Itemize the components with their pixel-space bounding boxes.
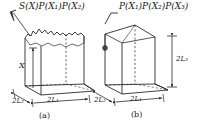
- panel-b-top-label-text: P(X₁)P(X₂)P(X₃): [119, 1, 188, 11]
- leader-arrow-a: [10, 10, 30, 36]
- panel-a-depth-label-text: 2L₂: [12, 97, 24, 105]
- figure-container: S(X)P(X₁)P(X₂) X 2L₂ 2L₁ (a) P(X₁)P(X₂)P…: [0, 0, 206, 127]
- panel-b-height-label-text: 2L₃: [176, 55, 188, 63]
- panel-b-width-label: 2L₁: [130, 96, 142, 103]
- dimension-arrow-x-a: [29, 48, 37, 88]
- peak-surface-ridge-b: [122, 25, 135, 43]
- peak-surface-b: [105, 25, 155, 37]
- panel-a-height-label-text: X: [19, 61, 25, 70]
- figure-drawing: [0, 0, 206, 127]
- rough-surface-back-a: [25, 38, 84, 47]
- leader-line-b: [105, 13, 118, 24]
- panel-b-depth-label: 2L₂: [94, 97, 106, 104]
- panel-b-width-label-text: 2L₁: [130, 95, 142, 103]
- panel-b-caption-text: (b): [131, 110, 142, 119]
- panel-a-drawing: [10, 10, 95, 107]
- dimension-line-2L1-a: [32, 95, 90, 107]
- panel-a-caption-text: (a): [39, 111, 50, 120]
- panel-b-caption: (b): [131, 111, 142, 119]
- panel-b-height-label: 2L₃: [176, 56, 188, 63]
- rough-surface-a: [25, 29, 84, 38]
- panel-a-caption: (a): [39, 112, 50, 120]
- panel-b-depth-label-text: 2L₂: [94, 96, 106, 104]
- box-a-right-lower-edge: [84, 84, 95, 91]
- panel-a-top-label: S(X)P(X₁)P(X₂): [19, 2, 85, 11]
- box-a-bottom-hidden-2: [66, 84, 95, 91]
- panel-a-width-label-text: 2L₁: [47, 96, 59, 104]
- peak-surface-back-b: [105, 34, 155, 43]
- panel-a-height-label: X: [19, 62, 25, 70]
- panel-a-depth-label: 2L₂: [12, 98, 24, 105]
- panel-a-width-label: 2L₁: [47, 97, 59, 104]
- panel-b-drawing: [96, 13, 177, 106]
- panel-b-top-label: P(X₁)P(X₂)P(X₃): [119, 2, 188, 11]
- panel-a-top-label-text: S(X)P(X₁)P(X₂): [19, 1, 85, 11]
- box-b-bottom-hidden-2: [135, 84, 168, 90]
